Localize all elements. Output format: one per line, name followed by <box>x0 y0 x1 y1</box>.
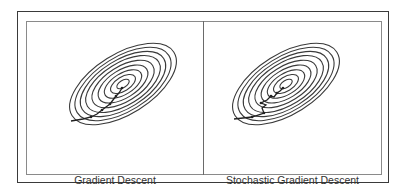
caption-gradient-descent: Gradient Descent <box>27 174 203 186</box>
panel-gradient-descent: Gradient Descent <box>27 22 203 174</box>
contour-plot-sgd <box>204 22 381 152</box>
caption-stochastic-gradient-descent: Stochastic Gradient Descent <box>204 174 381 186</box>
panel-stochastic-gradient-descent: Stochastic Gradient Descent <box>204 22 381 174</box>
contour-plot-gd <box>27 22 203 152</box>
